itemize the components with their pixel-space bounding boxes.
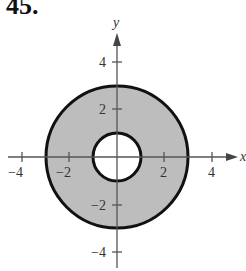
x-tick-label: −2 bbox=[56, 165, 71, 180]
x-tick-label: 4 bbox=[208, 165, 215, 180]
annulus-graph: −4 −2 2 4 4 2 −2 −4 y x bbox=[0, 0, 246, 271]
y-axis-label: y bbox=[111, 15, 120, 30]
x-tick-label: 2 bbox=[160, 165, 167, 180]
y-tick-label: −4 bbox=[91, 245, 106, 260]
y-tick-label: 4 bbox=[99, 55, 106, 70]
y-tick-label: 2 bbox=[99, 102, 106, 117]
x-axis-arrow-icon bbox=[226, 153, 238, 161]
x-tick-label: −4 bbox=[8, 165, 23, 180]
x-axis-label: x bbox=[239, 149, 246, 164]
y-axis-arrow-icon bbox=[113, 33, 121, 46]
y-tick-label: −2 bbox=[91, 198, 106, 213]
